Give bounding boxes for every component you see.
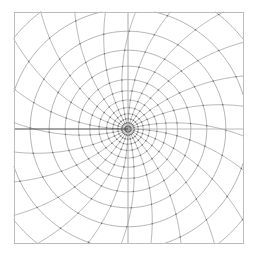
mesh-node [133,177,134,178]
mesh-node [176,135,177,136]
mesh-node [132,114,133,115]
mesh-node [78,134,79,135]
mesh-node [148,124,149,125]
mesh-node [119,123,120,124]
mesh-node [70,102,71,103]
mesh-node [124,50,125,51]
mesh-node [116,139,117,140]
mesh-node [96,106,97,107]
mesh-node [153,116,154,117]
mesh-node [97,167,98,168]
mesh-node [65,134,66,135]
mesh-node [142,133,143,134]
mesh-node [61,170,62,171]
mesh-node [227,196,228,197]
mesh-node [88,158,89,159]
mesh-node [103,112,104,113]
mesh-node [75,20,76,21]
mesh-node [133,125,134,126]
mesh-node [133,166,134,167]
mesh-node [111,152,112,153]
mesh-node [143,163,144,164]
mesh-node [151,203,152,204]
mesh-node [134,136,135,137]
mesh-node [118,156,119,157]
mesh-node [60,228,61,229]
mesh-node [151,145,152,146]
mesh-canvas [0,0,256,258]
mesh-node [126,150,127,151]
mesh-node [166,159,167,160]
mesh-node [167,98,168,99]
mesh-node [137,147,138,148]
mesh-node [151,158,152,159]
mesh-node [130,119,131,120]
mesh-node [98,152,99,153]
mesh-node [36,207,37,208]
mesh-node [33,102,34,103]
mesh-node [185,182,186,183]
mesh-node [173,110,174,111]
mesh-node [148,135,149,136]
mesh-node [136,134,137,135]
mesh-node [118,133,119,134]
mesh-node [50,111,51,112]
mesh-node [19,181,20,182]
mesh-node [130,134,131,135]
mesh-node [149,187,150,188]
mesh-node [206,125,207,126]
mesh-node [173,148,174,149]
mesh-node [156,123,157,124]
mesh-node [134,108,135,109]
mesh-node [179,92,180,93]
mesh-node [129,107,130,108]
mesh-node [155,138,156,139]
mesh-node [109,116,110,117]
mesh-node [65,117,66,118]
mesh-node [129,122,130,123]
mesh-node [137,101,138,102]
mesh-node [91,77,92,78]
mesh-node [131,143,132,144]
mesh-node [137,126,138,127]
mesh-node [138,139,139,140]
mesh-node [206,219,207,220]
mesh-node [113,112,114,113]
mesh-node [204,145,205,146]
mesh-node [150,97,151,98]
mesh-node [59,58,60,59]
mesh-node [123,107,124,108]
mesh-node [164,58,165,59]
mesh-node [132,133,133,134]
mesh-node [141,121,142,122]
mesh-node [130,99,131,100]
mesh-node [108,138,109,139]
mesh-node [117,131,118,132]
mesh-node [52,152,53,153]
mesh-node [57,92,58,93]
mesh-node [189,139,190,140]
mesh-node [141,93,142,94]
mesh-node [120,177,121,178]
mesh-node [163,142,164,143]
mesh-node [156,131,157,132]
mesh-node [122,119,123,120]
mesh-node [112,132,113,133]
mesh-node [109,83,110,84]
mesh-node [133,127,134,128]
mesh-node [158,89,159,90]
mesh-node [74,186,75,187]
mesh-node [85,62,86,63]
mesh-node [106,133,107,134]
mesh-node [101,222,102,223]
mesh-node [152,223,153,224]
mesh-node [143,114,144,115]
mesh-node [133,131,134,132]
mesh-node [135,115,136,116]
mesh-node [57,197,58,198]
mesh-node [131,90,132,91]
mesh-node [165,132,166,133]
mesh-node [146,119,147,120]
mesh-node [147,83,148,84]
mesh-node [157,168,158,169]
